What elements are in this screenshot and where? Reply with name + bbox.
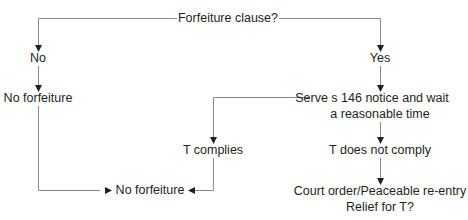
node-court-order-line1: Court order/Peaceable re-entry: [293, 184, 467, 199]
node-t-does-not-comply: T does not comply: [328, 143, 432, 158]
node-no-forfeiture-left: No forfeiture: [3, 91, 74, 106]
node-yes: Yes: [369, 51, 391, 66]
node-no-forfeiture-bottom: No forfeiture: [115, 183, 186, 198]
node-forfeiture-clause: Forfeiture clause?: [177, 11, 279, 26]
node-serve-notice-line1: Serve s 146 notice and wait: [294, 91, 450, 106]
node-t-complies: T complies: [182, 143, 244, 158]
node-no: No: [29, 51, 47, 66]
node-serve-notice-line2: a reasonable time: [329, 107, 430, 122]
node-relief-for-t: Relief for T?: [345, 200, 415, 215]
